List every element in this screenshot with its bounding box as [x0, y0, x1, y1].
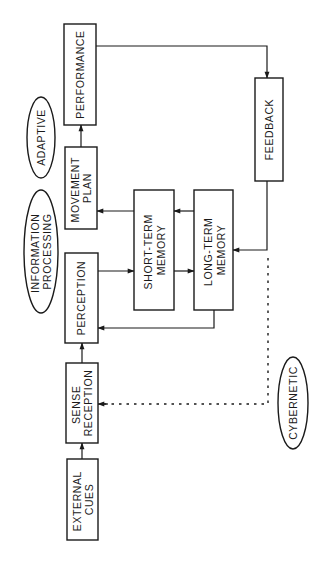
node-label: FEEDBACK [263, 99, 275, 160]
node-label: LONG-TERM MEMORY [202, 214, 227, 286]
ellipse-label: INFORMATION PROCESSING [29, 210, 53, 293]
edge-ltm-to-perception [98, 310, 214, 328]
edge-performance-to-feedback [96, 46, 267, 78]
node-long-term-memory: LONG-TERM MEMORY [194, 190, 233, 310]
node-perception: PERCEPTION [65, 253, 98, 343]
label-cybernetic: CYBERNETIC [278, 357, 308, 449]
node-movement-plan: MOVEMENT PLAN [65, 147, 97, 229]
ellipse-label: ADAPTIVE [35, 109, 47, 166]
edge-feedback-to-sense-reception-dotted [100, 258, 268, 404]
node-short-term-memory: SHORT-TERM MEMORY [134, 190, 174, 310]
ellipse-label: CYBERNETIC [287, 366, 299, 440]
label-adaptive: ADAPTIVE [27, 97, 55, 178]
motor-learning-diagram: PERFORMANCE MOVEMENT PLAN PERCEPTION SEN… [0, 0, 325, 567]
node-sense-reception: SENSE RECEPTION [66, 363, 98, 443]
node-external-cues: EXTERNAL CUES [67, 459, 98, 540]
node-label: PERCEPTION [75, 261, 87, 335]
edge-feedback-to-ltm [233, 181, 267, 250]
label-information-processing: INFORMATION PROCESSING [24, 190, 58, 313]
node-label: PERFORMANCE [74, 30, 86, 118]
node-performance: PERFORMANCE [64, 24, 96, 125]
node-feedback: FEEDBACK [255, 78, 283, 181]
